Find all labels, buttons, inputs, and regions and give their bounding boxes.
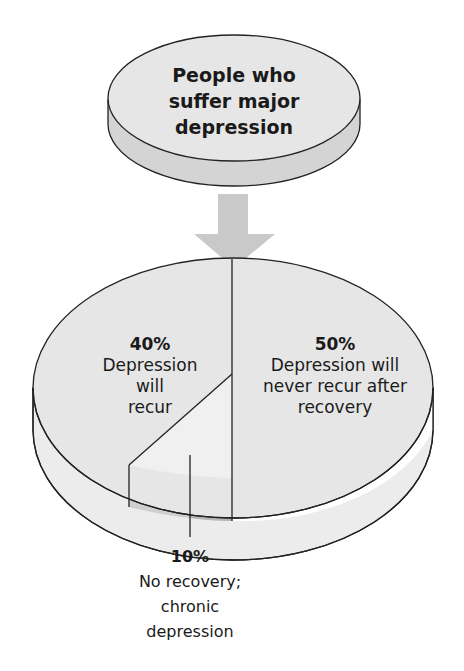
segment-text: Depression (60, 355, 240, 376)
source-label-line: suffer major (134, 88, 334, 114)
segment-never-recur-label: 50% Depression will never recur after re… (240, 334, 430, 418)
segment-text: depression (110, 619, 270, 644)
segment-chronic-label: 10% No recovery; chronic depression (110, 544, 270, 644)
segment-text: recur (60, 397, 240, 418)
segment-percent: 50% (240, 334, 430, 355)
segment-percent: 10% (110, 544, 270, 569)
source-label-line: depression (134, 114, 334, 140)
segment-text: chronic (110, 594, 270, 619)
source-label: People who suffer major depression (134, 62, 334, 140)
segment-text: No recovery; (110, 569, 270, 594)
segment-text: Depression will (240, 355, 430, 376)
segment-text: will (60, 376, 240, 397)
down-arrow-icon (194, 194, 275, 268)
source-label-line: People who (134, 62, 334, 88)
segment-text: recovery (240, 397, 430, 418)
segment-percent: 40% (60, 334, 240, 355)
segment-text: never recur after (240, 376, 430, 397)
segment-recur-label: 40% Depression will recur (60, 334, 240, 418)
